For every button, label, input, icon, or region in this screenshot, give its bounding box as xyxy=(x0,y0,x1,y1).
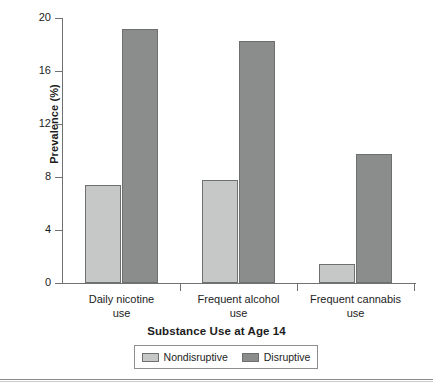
category-label-line: Frequent cannabis xyxy=(297,292,414,306)
legend-swatch-disruptive xyxy=(242,353,259,362)
x-axis-title: Substance Use at Age 14 xyxy=(0,325,433,337)
category-label-line: use xyxy=(180,306,297,320)
legend-entry-disruptive: Disruptive xyxy=(242,351,311,363)
x-tick-2 xyxy=(414,284,415,291)
y-tick-16: 16 xyxy=(55,71,63,72)
category-label-line: use xyxy=(297,306,414,320)
bar-disruptive-2 xyxy=(356,154,392,283)
page-rule-secondary xyxy=(0,381,433,382)
y-tick-8: 8 xyxy=(55,177,63,178)
y-tick-label-16: 16 xyxy=(39,64,51,77)
category-label-1: Frequent alcoholuse xyxy=(180,292,297,320)
y-tick-0: 0 xyxy=(55,283,63,284)
y-tick-label-12: 12 xyxy=(39,117,51,130)
y-tick-4: 4 xyxy=(55,230,63,231)
x-tick-0 xyxy=(180,284,181,291)
chart-legend: Nondisruptive Disruptive xyxy=(134,345,318,369)
bars-layer xyxy=(63,18,415,283)
page-rule xyxy=(0,379,433,380)
bar-disruptive-0 xyxy=(122,29,158,283)
category-label-line: use xyxy=(63,306,180,320)
category-label-0: Daily nicotineuse xyxy=(63,292,180,320)
y-tick-12: 12 xyxy=(55,124,63,125)
y-tick-label-8: 8 xyxy=(45,170,51,183)
y-tick-label-4: 4 xyxy=(45,223,51,236)
y-tick-20: 20 xyxy=(55,18,63,19)
bar-chart-figure: Prevalence (%) 048121620 Daily nicotineu… xyxy=(0,0,433,387)
legend-entry-nondisruptive: Nondisruptive xyxy=(142,351,228,363)
category-label-line: Frequent alcohol xyxy=(180,292,297,306)
category-label-2: Frequent cannabisuse xyxy=(297,292,414,320)
y-tick-label-0: 0 xyxy=(45,276,51,289)
bar-nondisruptive-2 xyxy=(319,264,355,283)
category-label-line: Daily nicotine xyxy=(63,292,180,306)
y-tick-label-20: 20 xyxy=(39,11,51,24)
bar-disruptive-1 xyxy=(239,41,275,283)
legend-label-nondisruptive: Nondisruptive xyxy=(164,351,228,363)
bar-nondisruptive-0 xyxy=(85,185,121,283)
legend-swatch-nondisruptive xyxy=(142,353,159,362)
x-tick-1 xyxy=(297,284,298,291)
bar-nondisruptive-1 xyxy=(202,180,238,283)
x-axis-line xyxy=(62,283,416,284)
legend-label-disruptive: Disruptive xyxy=(264,351,311,363)
